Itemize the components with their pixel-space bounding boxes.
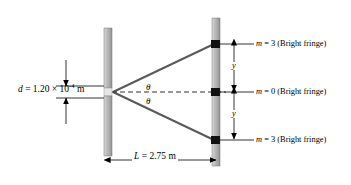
barrier-lower-segment: [104, 96, 112, 156]
slit-aperture: [104, 88, 112, 96]
fringe-label-center: m = 0 (Bright fringe): [256, 88, 326, 96]
screen-distance-value: = 2.75 m: [139, 151, 176, 161]
fringe-label-bottom: m = 3 (Bright fringe): [256, 136, 326, 144]
screen-distance-label: L = 2.75 m: [132, 152, 178, 162]
fringe-marker-center: [211, 88, 220, 96]
barrier-upper-segment: [104, 28, 112, 88]
diagram-canvas: d = 1.20 × 10-4 m θ θ L = 2.75 m m = 3 (…: [0, 0, 351, 185]
slit-separation-label: d = 1.20 × 10-4 m: [18, 85, 84, 95]
fringe-spacing-label-upper: y: [231, 62, 237, 70]
fringe-spacing-label-lower: y: [231, 110, 237, 118]
light-ray-upper: [113, 44, 214, 92]
theta-lower-label: θ: [146, 97, 150, 106]
theta-upper-label: θ: [146, 83, 150, 92]
light-ray-lower: [113, 92, 214, 140]
fringe-top-text: = 3 (Bright fringe): [262, 39, 326, 48]
slit-separation-value: = 1.20 × 10: [23, 84, 69, 94]
fringe-marker-bottom: [211, 136, 220, 144]
fringe-label-top: m = 3 (Bright fringe): [256, 40, 326, 48]
fringe-bottom-text: = 3 (Bright fringe): [262, 135, 326, 144]
fringe-marker-top: [211, 40, 220, 48]
slit-separation-unit: m: [75, 84, 85, 94]
fringe-center-text: = 0 (Bright fringe): [262, 87, 326, 96]
